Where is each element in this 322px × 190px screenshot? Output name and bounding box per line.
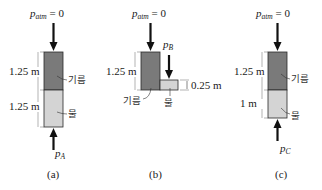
panel-b: patm = 0 pB 1.25 m 0.25 m 기름 물 (b) (106, 7, 222, 181)
oil-label: 기름 (68, 74, 86, 85)
pressure-label-b: pB (162, 38, 174, 52)
water-height-label: 1.25 m (9, 100, 40, 112)
pressure-label-a: pA (54, 147, 66, 161)
p-atm-label-a: patm = 0 (29, 7, 64, 21)
water-height-label: 0.25 m (191, 79, 222, 91)
water-column (160, 80, 178, 90)
caption-a: (a) (47, 168, 60, 181)
oil-column (268, 52, 287, 90)
oil-label: 기름 (291, 73, 309, 84)
p-atm-label-b: patm = 0 (131, 7, 166, 21)
oil-label: 기름 (123, 95, 141, 106)
water-label: 물 (68, 108, 77, 119)
oil-height-label: 1.25 m (9, 65, 40, 77)
water-height-label: 1 m (240, 97, 257, 109)
oil-column (44, 52, 63, 90)
p-atm-label-c: patm = 0 (255, 7, 290, 21)
oil-height-label: 1.25 m (234, 65, 265, 77)
water-label: 물 (291, 110, 300, 121)
oil-height-label: 1.25 m (106, 65, 137, 77)
panel-a: patm = 0 1.25 m 1.25 m 기름 물 pA (a) (9, 7, 86, 181)
water-column (268, 90, 287, 118)
water-label: 물 (164, 97, 173, 108)
manometer-diagram: patm = 0 1.25 m 1.25 m 기름 물 pA (a) (0, 0, 322, 190)
caption-b: (b) (149, 168, 162, 181)
caption-c: (c) (275, 168, 288, 181)
panel-c: patm = 0 1.25 m 1 m 기름 물 pC (c) (234, 7, 309, 181)
pressure-label-c: pC (279, 142, 292, 156)
oil-column (141, 52, 160, 90)
water-column (44, 90, 63, 127)
